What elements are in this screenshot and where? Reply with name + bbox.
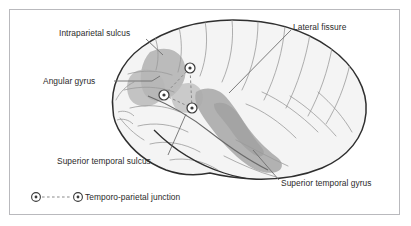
- tpj-marker-anterior: [159, 90, 169, 100]
- legend-label: Temporo-parietal junction: [85, 192, 180, 202]
- brain-diagram-figure: Intraparietal sulcus Angular gyrus Super…: [0, 0, 411, 226]
- tpj-marker-inferior: [187, 103, 197, 113]
- tpj-marker-superior: [185, 63, 195, 73]
- label-intraparietal-sulcus: Intraparietal sulcus: [59, 28, 130, 38]
- label-lateral-fissure: Lateral fissure: [293, 22, 346, 32]
- legend-symbol: [32, 193, 83, 202]
- label-superior-temporal-gyrus: Superior temporal gyrus: [281, 178, 372, 188]
- label-superior-temporal-sulcus: Superior temporal sulcus: [57, 156, 151, 166]
- label-angular-gyrus: Angular gyrus: [43, 76, 95, 86]
